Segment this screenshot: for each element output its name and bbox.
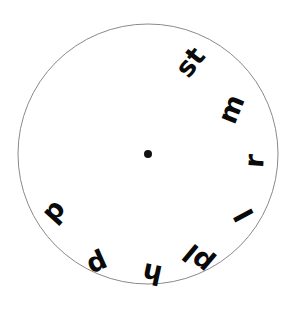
wheel-label-r: r — [240, 153, 268, 168]
wheel-center-dot — [144, 150, 152, 158]
word-wheel-figure: stmrlplhpd — [0, 0, 299, 318]
